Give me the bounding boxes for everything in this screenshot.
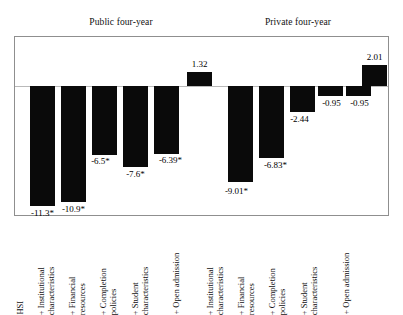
x-tick-label-5: + Open admission xyxy=(172,223,182,315)
bar-value-label-public-completion: -7.6* xyxy=(113,169,159,179)
plot-area: -11.3*-10.9*-6.5*-7.6*-6.39*1.32-9.01*-6… xyxy=(14,36,389,216)
bar-private-institutional xyxy=(228,86,253,182)
bar-value-label-private-open-1: -0.95 xyxy=(337,98,383,108)
bar-public-open-admission xyxy=(187,72,212,86)
x-tick-label-6: + Institutional characteristics xyxy=(206,223,225,315)
x-tick-label-10: + Open admission xyxy=(342,223,352,315)
bar-value-label-public-student: -6.39* xyxy=(148,155,194,165)
bar-value-label-private-completion: -2.44 xyxy=(277,114,323,124)
bar-public-hsi xyxy=(30,86,55,206)
bar-value-label-public-institutional: -10.9* xyxy=(51,204,97,214)
bar-value-label-private-financial: -6.83* xyxy=(253,160,299,170)
x-tick-label-2: + Financial resources xyxy=(68,223,87,315)
bar-value-label-public-open-admission: 1.32 xyxy=(177,59,223,69)
bar-private-student xyxy=(318,86,343,96)
bar-public-institutional xyxy=(61,86,86,202)
bar-public-completion xyxy=(123,86,148,167)
x-tick-label-3: + Completion policies xyxy=(99,223,118,315)
x-tick-label-4: + Student characteristics xyxy=(131,223,150,315)
panel-title-public: Public four-year xyxy=(61,17,181,27)
bar-chart-figure: Public four-year Private four-year -11.3… xyxy=(0,0,403,315)
bar-value-label-public-financial: -6.5* xyxy=(78,156,124,166)
bar-private-open-1 xyxy=(346,86,371,96)
x-tick-label-0: HSI xyxy=(16,223,26,315)
bar-value-label-private-institutional: -9.01* xyxy=(214,186,260,196)
bar-value-label-private-open-2: 2.01 xyxy=(352,52,398,62)
bar-public-financial xyxy=(92,86,117,155)
x-tick-label-8: + Completion policies xyxy=(268,223,287,315)
x-tick-label-9: + Student characteristics xyxy=(300,223,319,315)
x-tick-label-7: + Financial resources xyxy=(237,223,256,315)
bar-private-open-2 xyxy=(362,65,387,86)
x-tick-label-1: + Institutional characteristics xyxy=(37,223,56,315)
panel-title-private: Private four-year xyxy=(238,17,358,27)
bars-layer: -11.3*-10.9*-6.5*-7.6*-6.39*1.32-9.01*-6… xyxy=(15,37,388,215)
x-axis-tick-labels: HSI+ Institutional characteristics+ Fina… xyxy=(14,218,389,315)
bar-public-student xyxy=(154,86,179,154)
